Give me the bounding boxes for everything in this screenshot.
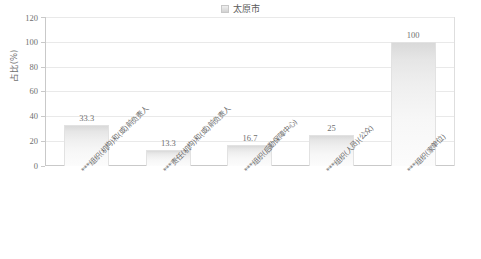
y-tick-label-20: 20 — [8, 137, 38, 145]
x-label-slot-4: ***组织(人员)(公众) — [291, 167, 373, 247]
y-tick-label-80: 80 — [8, 63, 38, 71]
bar-value-5: 100 — [372, 31, 454, 40]
chart-legend: 太原市 — [0, 2, 481, 16]
x-label-slot-5: ***组织(家单位) — [372, 167, 454, 247]
y-tick-mark-0 — [41, 166, 45, 167]
y-tick-label-40: 40 — [8, 112, 38, 120]
y-tick-label-100: 100 — [8, 38, 38, 46]
x-axis-labels: ***组织(机构)和(或)前负责人 ***责任(机构)和(或)前负责人 ***组… — [46, 167, 454, 247]
bar-value-1: 33.3 — [46, 114, 128, 123]
y-tick-label-0: 0 — [8, 162, 38, 170]
x-label-slot-2: ***责任(机构)和(或)前负责人 — [128, 167, 210, 247]
y-tick-label-120: 120 — [8, 14, 38, 22]
legend-swatch-icon — [221, 5, 229, 13]
x-label-slot-1: ***组织(机构)和(或)前负责人 — [46, 167, 128, 247]
legend-label-taiyuan: 太原市 — [233, 4, 260, 14]
x-label-slot-3: ***组织(后勤保障中心) — [209, 167, 291, 247]
y-tick-label-60: 60 — [8, 87, 38, 95]
bar-chart: 太原市 占比(%) 0 20 40 60 80 100 120 33.3 — [0, 0, 481, 259]
